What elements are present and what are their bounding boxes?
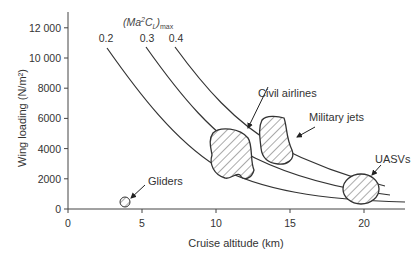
svg-text:8000: 8000 xyxy=(38,82,62,94)
svg-text:4000: 4000 xyxy=(38,143,62,155)
y-ticks xyxy=(64,28,68,209)
svg-text:12 000: 12 000 xyxy=(29,22,61,34)
military-jets-arrow xyxy=(297,127,315,137)
x-tick-labels: 0 5 10 15 20 xyxy=(65,217,370,229)
x-ticks xyxy=(68,209,364,213)
svg-text:0: 0 xyxy=(65,217,71,229)
svg-text:10: 10 xyxy=(210,217,222,229)
curve-labels: 0.2 0.3 0.4 xyxy=(99,32,184,44)
svg-text:20: 20 xyxy=(358,217,370,229)
svg-text:2000: 2000 xyxy=(38,173,62,185)
military-jets-region xyxy=(260,116,293,164)
military-jets-label: Military jets xyxy=(309,111,365,123)
svg-text:6000: 6000 xyxy=(38,112,62,124)
svg-text:0.4: 0.4 xyxy=(169,32,184,44)
x-axis-label: Cruise altitude (km) xyxy=(188,237,283,249)
svg-text:0.2: 0.2 xyxy=(99,32,114,44)
wing-loading-chart: 0 2000 4000 6000 8000 10 000 12 000 0 5 … xyxy=(0,0,420,259)
legend-title: (Ma2CL)max xyxy=(123,16,174,30)
uasvs-arrow xyxy=(372,165,381,175)
svg-text:15: 15 xyxy=(284,217,296,229)
svg-text:5: 5 xyxy=(139,217,145,229)
gliders-region xyxy=(120,197,130,207)
gliders-arrow xyxy=(131,185,145,198)
uasvs-label: UASVs xyxy=(375,153,411,165)
y-tick-labels: 0 2000 4000 6000 8000 10 000 12 000 xyxy=(29,22,61,215)
svg-text:0: 0 xyxy=(55,203,61,215)
gliders-label: Gliders xyxy=(148,175,183,187)
svg-text:10 000: 10 000 xyxy=(29,52,61,64)
civil-airlines-label: Civil airlines xyxy=(258,87,317,99)
civil-airlines-region xyxy=(210,129,254,179)
uasvs-region xyxy=(343,174,379,204)
svg-text:0.3: 0.3 xyxy=(140,32,155,44)
y-axis-label: Wing loading (N/m²) xyxy=(16,69,28,167)
